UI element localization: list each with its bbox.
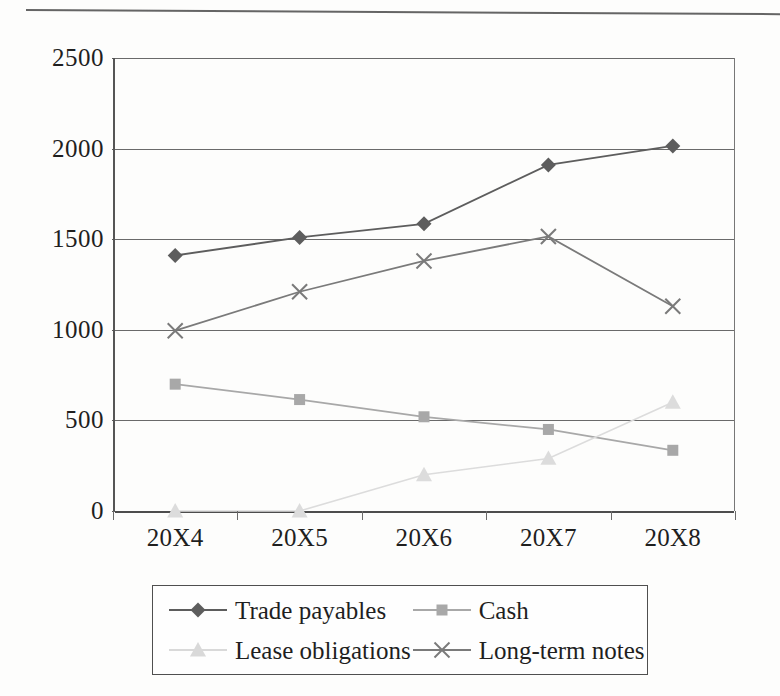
legend-entry-lease-obligations[interactable]: Lease obligations	[167, 638, 411, 663]
legend-label: Cash	[479, 598, 529, 623]
x-tick-label-20X6: 20X6	[364, 524, 484, 552]
x-tick-mark-20X8	[611, 511, 612, 520]
x-tick-mark-20X6	[362, 511, 363, 520]
x-tick-mark-20X5	[237, 511, 238, 520]
x-tick-mark-20X7	[486, 511, 487, 520]
diamond-marker	[292, 230, 307, 245]
cross-marker	[168, 323, 183, 338]
x-axis-ticks	[113, 511, 735, 521]
x-axis-labels: 20X420X520X620X720X8	[113, 524, 735, 558]
y-tick-label-2000: 2000	[14, 136, 104, 161]
diamond-marker	[417, 216, 432, 231]
y-tick-label-1500: 1500	[14, 226, 104, 251]
top-horizontal-rule	[26, 9, 780, 15]
series-line	[175, 236, 673, 330]
legend-label: Trade payables	[235, 598, 386, 623]
series-layer	[113, 58, 735, 511]
diamond-marker	[541, 157, 556, 172]
y-tick-label-2500: 2500	[14, 45, 104, 70]
x-tick-mark-20X4	[113, 511, 114, 520]
cross-marker	[292, 284, 307, 299]
cross-marker	[417, 253, 432, 268]
x-tick-label-20X8: 20X8	[613, 524, 733, 552]
triangle-marker	[665, 394, 681, 408]
cross-marker	[665, 299, 680, 314]
line-chart-figure: 25002000150010005000 20X420X520X620X720X…	[0, 0, 780, 696]
square-marker	[170, 379, 181, 390]
x-tick-label-20X5: 20X5	[240, 524, 360, 552]
series-cash	[170, 379, 679, 456]
square-marker	[543, 424, 554, 435]
y-tick-label-1000: 1000	[14, 317, 104, 342]
legend-entry-cash[interactable]: Cash	[411, 598, 645, 623]
series-trade-payables	[168, 138, 681, 263]
legend-entry-long-term-notes[interactable]: Long-term notes	[411, 638, 645, 663]
legend-grid: Trade payablesCashLease obligationsLong-…	[153, 586, 647, 674]
x-tick-label-20X4: 20X4	[115, 524, 235, 552]
x-tick-label-20X7: 20X7	[488, 524, 608, 552]
diamond-legend-icon	[167, 600, 229, 620]
y-axis-labels: 25002000150010005000	[8, 58, 104, 511]
square-marker	[419, 411, 430, 422]
series-line	[175, 146, 673, 256]
triangle-marker	[540, 450, 556, 464]
legend-label: Lease obligations	[235, 638, 411, 663]
diamond-marker	[168, 248, 183, 263]
square-marker	[294, 394, 305, 405]
square-legend-icon	[411, 600, 473, 620]
diamond-marker	[191, 603, 206, 618]
square-marker	[667, 445, 678, 456]
x-tick-mark-end	[735, 511, 736, 520]
y-tick-label-0: 0	[14, 498, 104, 523]
legend: Trade payablesCashLease obligationsLong-…	[152, 585, 648, 675]
legend-label: Long-term notes	[479, 638, 645, 663]
y-tick-label-500: 500	[14, 407, 104, 432]
legend-entry-trade-payables[interactable]: Trade payables	[167, 598, 411, 623]
triangle-legend-icon	[167, 640, 229, 660]
diamond-marker	[665, 138, 680, 153]
cross-legend-icon	[411, 640, 473, 660]
square-marker	[436, 605, 447, 616]
cross-marker	[541, 229, 556, 244]
